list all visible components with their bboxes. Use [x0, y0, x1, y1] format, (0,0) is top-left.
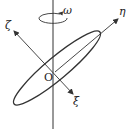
zeta-axis [14, 31, 43, 62]
zeta-label: ζ [5, 19, 12, 32]
eta-axis [55, 19, 118, 72]
eta-label: η [119, 5, 126, 18]
diagram-canvas: ω η ζ ξ O [0, 0, 133, 129]
origin-label: O [44, 71, 53, 84]
xi-label: ξ [73, 95, 80, 108]
ellipsoid-body [7, 24, 107, 113]
omega-label: ω [63, 4, 72, 17]
